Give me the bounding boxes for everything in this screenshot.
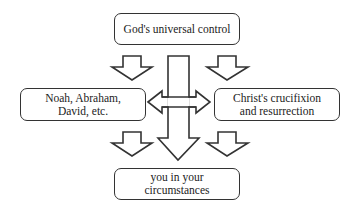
node-christs-crucifixion: Christ's crucifixion and resurrection xyxy=(214,88,340,121)
arrow-top-to-bottom xyxy=(158,56,199,160)
node-gods-universal-control: God's universal control xyxy=(114,13,240,45)
node-label-line2: David, etc. xyxy=(45,105,121,118)
node-label-line1: Christ's crucifixion xyxy=(233,92,321,105)
arrow-left-to-bottom xyxy=(112,132,152,156)
node-label-line1: Noah, Abraham, xyxy=(45,92,121,105)
node-you-in-your-circumstances: you in your circumstances xyxy=(114,168,240,200)
node-label: God's universal control xyxy=(124,23,231,36)
node-noah-abraham-david: Noah, Abraham, David, etc. xyxy=(20,88,146,121)
arrow-right-to-bottom xyxy=(207,132,248,156)
node-label-line1: you in your xyxy=(144,171,209,184)
node-label-line2: circumstances xyxy=(144,184,209,197)
arrow-top-to-right xyxy=(207,56,248,80)
node-label-line2: and resurrection xyxy=(233,105,321,118)
arrow-top-to-left xyxy=(112,56,152,80)
